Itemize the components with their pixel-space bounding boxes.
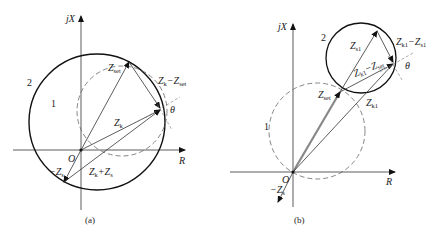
z-set-label: Zset (108, 62, 121, 74)
zk1-minus-zset-label: Zk1−Zset (352, 57, 386, 80)
zk-plus-zs-label: Zk+Zs (89, 166, 113, 178)
x-axis-label: R (178, 155, 185, 166)
z-set-label: Zset (318, 89, 331, 101)
origin-dot (291, 170, 294, 173)
theta-label: θ (170, 104, 175, 115)
x-axis-label: R (385, 176, 392, 187)
caption-a: (a) (85, 215, 95, 225)
origin-label: O (282, 174, 289, 185)
z-set-vector (293, 92, 340, 172)
zk-vector (81, 110, 160, 150)
origin-label: O (68, 153, 75, 164)
theta-label: θ (405, 60, 410, 71)
circle-2-label: 2 (27, 77, 32, 88)
z-s1-label: Zs1 (350, 40, 361, 52)
y-axis-label: jX (276, 21, 288, 32)
zk1-vector (293, 64, 393, 172)
caption-b: (b) (294, 215, 305, 225)
circle-2-label: 2 (321, 32, 326, 43)
zk-label: Zk (114, 117, 124, 129)
zk1-label: Zk1 (366, 97, 378, 109)
zk1-minus-zs1-label: Zk1−Zs1 (396, 36, 426, 48)
neg-zs-label: −Zs (49, 166, 64, 178)
circle-1-label: 1 (51, 98, 56, 109)
z-set-vector (81, 62, 129, 150)
panel-b: jX R O 2 1 Zs1 Zk1−Zs1 Zk1−Zset Zset Zk1… (230, 21, 426, 225)
circle-1 (77, 66, 167, 156)
neg-zs-label: −Zs (270, 184, 285, 196)
panel-a: jX R O 2 1 Zset Zk−Zset Zk −Zs Zk+Zs θ (… (13, 13, 187, 225)
impedance-circle-diagram: jX R O 2 1 Zset Zk−Zset Zk −Zs Zk+Zs θ (… (0, 0, 439, 239)
zk-minus-zset-label: Zk−Zset (158, 75, 187, 87)
y-axis-label: jX (64, 13, 76, 24)
zk1-minus-zs1-vector (377, 31, 393, 62)
circle-1-label: 1 (264, 121, 269, 132)
origin-dot (79, 148, 82, 151)
